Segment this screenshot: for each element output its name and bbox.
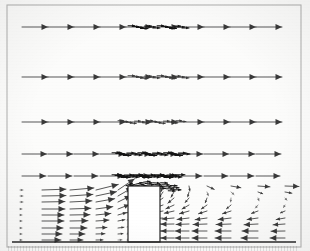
freestream-row-2-arrow bbox=[230, 74, 256, 80]
freestream-row-4-arrow bbox=[230, 151, 255, 157]
col-u5-arrow bbox=[118, 226, 124, 229]
freestream-row-2-arrow bbox=[204, 74, 230, 80]
col-u1-arrow bbox=[20, 214, 22, 217]
col-u1-arrow bbox=[20, 195, 23, 198]
col-u2-arrow bbox=[42, 199, 65, 205]
col-w3-arrow bbox=[182, 205, 189, 209]
freestream-row-1-arrow bbox=[256, 24, 282, 30]
col-w6-arrow bbox=[241, 235, 258, 241]
col-w3-arrow bbox=[185, 198, 189, 203]
col-u2-arrow bbox=[42, 225, 63, 231]
roof-plume-cluster-arrow bbox=[153, 182, 160, 185]
col-w7-arrow bbox=[270, 235, 285, 241]
freestream-row-1-arrow bbox=[22, 24, 48, 30]
col-w4-arrow bbox=[192, 228, 207, 234]
col-w3-arrow bbox=[188, 186, 191, 191]
col-u1-arrow bbox=[20, 201, 23, 204]
col-u3-arrow bbox=[70, 231, 85, 237]
freestream-row-2-arrow bbox=[126, 74, 152, 80]
col-u1-arrow bbox=[20, 220, 22, 223]
col-w5-arrow bbox=[230, 198, 233, 202]
freestream-row-3-arrow bbox=[178, 119, 204, 125]
col-w7-arrow bbox=[276, 217, 285, 220]
col-w3-arrow bbox=[187, 192, 190, 197]
col-w6-arrow bbox=[244, 222, 258, 227]
freestream-row-1-arrow bbox=[204, 24, 230, 30]
col-w7-arrow bbox=[273, 222, 285, 227]
col-u4-arrow bbox=[96, 226, 107, 230]
shear-layer-row-5-arrow bbox=[74, 173, 98, 179]
col-w4-arrow bbox=[207, 186, 214, 189]
col-u2-arrow bbox=[42, 218, 64, 224]
col-w5-arrow bbox=[226, 205, 231, 209]
freestream-row-3-arrow bbox=[22, 119, 48, 125]
col-w2-arrow bbox=[171, 192, 174, 197]
freestream-row-4-arrow bbox=[256, 151, 281, 157]
freestream-row-1-arrow bbox=[230, 24, 256, 30]
col-u1-arrow bbox=[20, 189, 23, 192]
col-w7-arrow bbox=[271, 228, 285, 233]
freestream-row-2-arrow bbox=[74, 74, 100, 80]
col-u3-arrow bbox=[70, 212, 90, 218]
col-u4-arrow bbox=[96, 183, 118, 190]
col-w6-arrow bbox=[258, 192, 263, 194]
col-w4-arrow bbox=[192, 235, 207, 241]
col-w4-arrow bbox=[195, 217, 207, 222]
col-w6-arrow bbox=[257, 198, 259, 201]
col-u4-arrow bbox=[96, 239, 103, 242]
col-w6-arrow bbox=[247, 217, 258, 221]
col-w2-arrow bbox=[162, 216, 174, 221]
shear-layer-row-5-arrow bbox=[230, 173, 254, 179]
col-u1-arrow bbox=[20, 227, 22, 230]
col-u2-arrow bbox=[42, 193, 66, 199]
shear-layer-row-5-arrow bbox=[256, 173, 280, 179]
col-w5-arrow bbox=[231, 185, 241, 189]
shear-layer-row-5-arrow bbox=[48, 173, 72, 179]
col-u4-arrow bbox=[96, 211, 111, 217]
col-u2-arrow bbox=[42, 212, 64, 218]
col-w6-arrow bbox=[258, 184, 270, 189]
col-w5-arrow bbox=[215, 235, 231, 241]
col-w6-arrow bbox=[242, 228, 258, 234]
col-u5-arrow bbox=[118, 233, 123, 236]
col-w3-arrow bbox=[175, 228, 189, 233]
col-w6-arrow bbox=[251, 211, 258, 214]
col-w7-arrow bbox=[285, 184, 299, 189]
col-w5-arrow bbox=[218, 216, 231, 221]
freestream-row-3-arrow bbox=[230, 119, 256, 125]
freestream-row-4-arrow bbox=[204, 151, 229, 157]
col-w5-arrow bbox=[222, 211, 231, 214]
col-w5-arrow bbox=[216, 221, 231, 227]
col-w2-arrow bbox=[161, 222, 174, 227]
col-u5-arrow bbox=[118, 219, 125, 222]
col-u5-arrow bbox=[118, 212, 127, 215]
col-u1-arrow bbox=[20, 233, 22, 236]
col-w4-arrow bbox=[206, 192, 208, 196]
freestream-row-3-arrow bbox=[48, 119, 74, 125]
col-w2-arrow bbox=[166, 205, 174, 209]
col-u2-arrow bbox=[42, 206, 65, 212]
col-u3-arrow bbox=[70, 206, 91, 212]
col-w7-arrow bbox=[285, 198, 287, 201]
col-w3-arrow bbox=[176, 222, 189, 227]
freestream-row-1-arrow bbox=[74, 24, 100, 30]
col-w4-arrow bbox=[205, 198, 207, 203]
freestream-row-3-arrow bbox=[204, 119, 230, 125]
freestream-row-3-arrow bbox=[74, 119, 100, 125]
shear-layer-row-5-arrow bbox=[22, 173, 46, 179]
col-u4-arrow bbox=[96, 218, 109, 223]
col-u3-arrow bbox=[70, 218, 88, 224]
col-u4-arrow bbox=[96, 197, 115, 203]
freestream-row-2-arrow bbox=[256, 74, 282, 80]
figure-root: .arrow-heavy { stroke: #141414; stroke-w… bbox=[0, 0, 310, 251]
col-u1-arrow bbox=[20, 208, 22, 211]
shear-layer-row-5-arrow bbox=[204, 173, 228, 179]
col-u4-arrow bbox=[96, 190, 117, 196]
freestream-row-1-arrow bbox=[48, 24, 74, 30]
col-w5-arrow bbox=[215, 228, 231, 234]
col-w7-arrow bbox=[285, 191, 292, 194]
col-u2-arrow bbox=[42, 186, 66, 192]
col-u5-arrow bbox=[118, 239, 122, 242]
col-u4-arrow bbox=[96, 232, 105, 235]
freestream-row-4-arrow bbox=[22, 151, 47, 157]
